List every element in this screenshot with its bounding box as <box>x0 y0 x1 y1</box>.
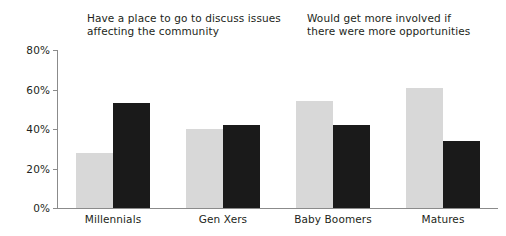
x-axis-line <box>57 208 498 209</box>
bar <box>296 101 333 208</box>
bar <box>333 125 370 208</box>
bar <box>113 103 150 208</box>
bar-group-baby-boomers <box>296 50 370 208</box>
y-axis-tick <box>53 129 58 130</box>
y-axis-tick <box>53 208 58 209</box>
bar <box>406 88 443 208</box>
x-axis-label-gen-xers: Gen Xers <box>168 213 278 225</box>
y-axis-tick-label: 20% <box>2 164 50 175</box>
bar <box>186 129 223 208</box>
y-axis-tick-label: 60% <box>2 85 50 96</box>
y-axis-tick-label: 40% <box>2 124 50 135</box>
y-axis-tick <box>53 50 58 51</box>
bar <box>76 153 113 208</box>
bar-chart: Have a place to go to discuss issues aff… <box>0 0 506 236</box>
plot-area: 0%20%40%60%80% MillennialsGen XersBaby B… <box>0 0 506 236</box>
bar <box>443 141 480 208</box>
y-axis-tick-label: 80% <box>2 45 50 56</box>
x-axis-label-baby-boomers: Baby Boomers <box>278 213 388 225</box>
bar-group-gen-xers <box>186 50 260 208</box>
bar-group-matures <box>406 50 480 208</box>
bar <box>223 125 260 208</box>
y-axis-tick <box>53 169 58 170</box>
y-axis-tick-label: 0% <box>2 203 50 214</box>
x-axis-label-millennials: Millennials <box>58 213 168 225</box>
y-axis-tick <box>53 90 58 91</box>
bar-group-millennials <box>76 50 150 208</box>
x-axis-label-matures: Matures <box>388 213 498 225</box>
